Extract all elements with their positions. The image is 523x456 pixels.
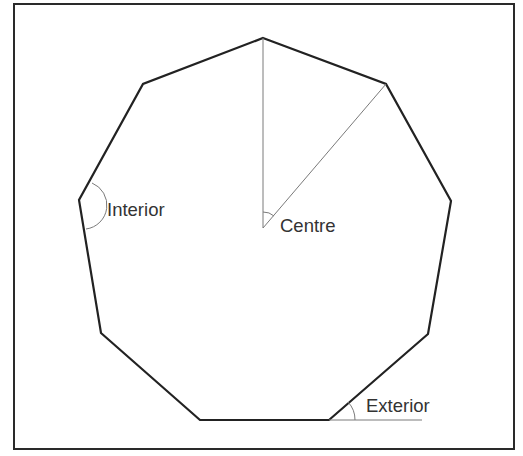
exterior-label: Exterior (366, 395, 430, 416)
nonagon-angle-diagram: Interior Centre Exterior (0, 0, 523, 456)
interior-label: Interior (107, 199, 165, 220)
centre-label: Centre (280, 215, 336, 236)
